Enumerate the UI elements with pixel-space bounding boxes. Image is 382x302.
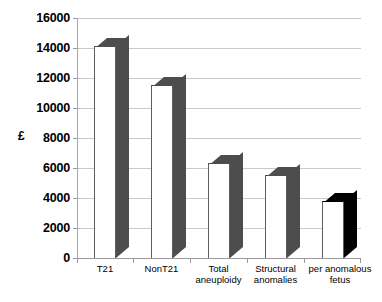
y-tick-8000: 8000 (0, 132, 70, 144)
x-label-line: Total (190, 263, 247, 274)
y-tick-label: 16000 (0, 12, 70, 24)
plot-area (77, 18, 361, 258)
bar (322, 190, 357, 258)
y-tick-label: 2000 (0, 222, 70, 234)
x-label-total-aneuploidy: Totalaneuploidy (190, 263, 247, 285)
bar-top-face (265, 164, 300, 175)
bar-front-face (265, 175, 287, 258)
y-tick-label: 12000 (0, 72, 70, 84)
bar-top-face (322, 190, 357, 201)
y-tick-10000: 10000 (0, 102, 70, 114)
bar (94, 35, 129, 258)
y-tick-6000: 6000 (0, 162, 70, 174)
bar-top-face (208, 152, 243, 163)
y-tick-label: 14000 (0, 42, 70, 54)
bar (208, 152, 243, 258)
bar (265, 164, 300, 258)
y-tick-label: 4000 (0, 192, 70, 204)
x-label-line: Structural (247, 263, 304, 274)
x-label-line: T21 (77, 263, 133, 274)
bar-top-face (94, 35, 129, 46)
y-tick-label: 6000 (0, 162, 70, 174)
y-tick-label: 10000 (0, 102, 70, 114)
y-tick-14000: 14000 (0, 42, 70, 54)
bar-front-face (151, 85, 173, 258)
x-label-per-anomalous-fetus: per anomalousfetus (300, 263, 380, 285)
x-label-structural-anomalies: Structuralanomalies (247, 263, 304, 285)
bar-side-face (230, 152, 243, 258)
x-label-line: anomalies (247, 274, 304, 285)
bar-front-face (94, 46, 116, 258)
x-label-nont21: NonT21 (133, 263, 190, 274)
y-tick-label: 8000 (0, 132, 70, 144)
y-tick-12000: 12000 (0, 72, 70, 84)
x-label-line: fetus (300, 274, 380, 285)
bars-layer (77, 18, 361, 258)
y-tick-0: 0 (0, 252, 70, 264)
bar (151, 74, 186, 258)
x-axis-line (77, 258, 361, 259)
bar-side-face (173, 74, 186, 258)
bar-side-face (116, 35, 129, 258)
y-tick-4000: 4000 (0, 192, 70, 204)
bar-front-face (208, 163, 230, 258)
y-tick-2000: 2000 (0, 222, 70, 234)
y-tick-label: 0 (0, 252, 70, 264)
bar-side-face (287, 164, 300, 258)
bar-top-face (151, 74, 186, 85)
x-label-line: aneuploidy (190, 274, 247, 285)
y-tick-16000: 16000 (0, 12, 70, 24)
x-label-t21: T21 (77, 263, 133, 274)
bar-chart: £ 16000 14000 12000 10000 8000 6000 4000… (0, 0, 382, 302)
x-label-line: NonT21 (133, 263, 190, 274)
bar-front-face (322, 201, 344, 258)
x-label-line: per anomalous (300, 263, 380, 274)
